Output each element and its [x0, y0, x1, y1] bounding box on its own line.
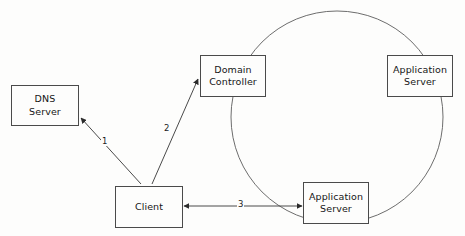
node-client[interactable]: Client [115, 186, 183, 228]
node-dns-server-label: DNS Server [27, 93, 63, 117]
edge-1-line [81, 118, 141, 184]
node-dns-server[interactable]: DNS Server [11, 85, 79, 126]
edge-3-label: 3 [237, 200, 244, 209]
node-domain-controller-label: Domain Controller [207, 64, 259, 88]
node-application-server-top-label: Application Server [391, 64, 449, 88]
node-domain-controller[interactable]: Domain Controller [200, 55, 266, 97]
node-application-server-bottom-label: Application Server [307, 191, 365, 215]
node-application-server-top[interactable]: Application Server [387, 55, 453, 97]
node-application-server-bottom[interactable]: Application Server [303, 182, 369, 224]
edge-1-label: 1 [101, 137, 108, 146]
diagram-canvas: DNS Server Domain Controller Application… [0, 0, 465, 236]
edge-2-line [152, 79, 198, 184]
edge-2-label: 2 [163, 124, 170, 133]
node-client-label: Client [133, 201, 165, 213]
